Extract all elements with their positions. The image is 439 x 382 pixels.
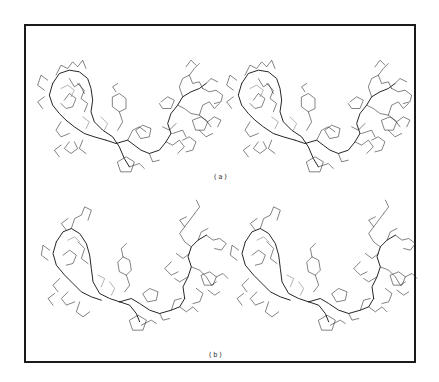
stereo-view-a-right xyxy=(225,36,425,206)
molecule-wireframe-icon xyxy=(225,36,425,206)
molecule-wireframe-icon xyxy=(227,186,427,346)
stereo-view-a-left xyxy=(36,36,236,206)
stereo-view-b-right xyxy=(227,186,427,346)
panel-label-b: (b) xyxy=(208,351,224,359)
stereo-view-b-left xyxy=(38,186,238,346)
molecule-wireframe-icon xyxy=(36,36,236,206)
panel-label-a: (a) xyxy=(213,173,229,181)
molecule-wireframe-icon xyxy=(38,186,238,346)
